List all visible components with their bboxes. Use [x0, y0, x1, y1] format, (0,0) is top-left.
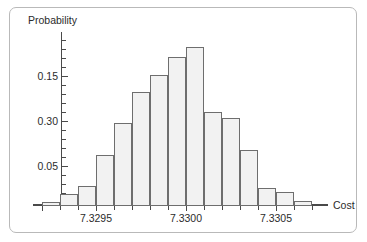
x-axis-major-tick-3: [276, 206, 277, 211]
y-axis-minor-tick: [62, 49, 66, 50]
y-axis-minor-tick: [62, 103, 66, 104]
x-axis-tick: [204, 206, 205, 210]
histogram-bar: [42, 202, 60, 206]
y-axis-minor-tick: [62, 94, 66, 95]
y-axis-minor-tick: [62, 58, 66, 59]
x-axis-tick-label-2: 7.3300: [156, 212, 216, 224]
histogram-bar: [96, 155, 114, 206]
x-axis-major-tick-2: [186, 206, 187, 211]
histogram-plot: Probability Cost 0.15 0.30 0.05: [0, 0, 367, 242]
x-axis-tick: [42, 206, 43, 211]
histogram-bar: [204, 112, 222, 206]
y-axis-major-tick-2: [62, 121, 68, 122]
x-axis-tick: [258, 206, 259, 210]
histogram-bar: [150, 75, 168, 206]
histogram-bar: [294, 201, 312, 206]
y-axis-major-tick-1: [62, 76, 68, 77]
right-tail-segment: [312, 204, 328, 205]
histogram-bar: [258, 188, 276, 206]
x-axis-tick: [150, 206, 151, 210]
y-axis-tick-label-middle: 0.30: [24, 115, 58, 127]
x-axis-tick: [240, 206, 241, 210]
y-axis-tick-label-bottom: 0.05: [24, 160, 58, 172]
histogram-bar: [60, 194, 78, 206]
histogram-bar: [240, 150, 258, 206]
y-axis-minor-tick: [62, 148, 66, 149]
x-axis-tick: [312, 206, 313, 210]
x-axis-tick-label-1: 7.3295: [66, 212, 126, 224]
x-axis-tick: [78, 206, 79, 210]
y-axis-minor-tick: [62, 85, 66, 86]
histogram-bar: [186, 47, 204, 206]
y-axis-minor-tick: [62, 175, 66, 176]
x-axis-tick: [114, 206, 115, 210]
y-axis-minor-tick: [62, 40, 66, 41]
y-axis-title: Probability: [28, 14, 77, 26]
x-axis-tick: [222, 206, 223, 210]
y-axis-minor-tick: [62, 112, 66, 113]
x-axis-title: Cost: [333, 199, 355, 211]
y-axis-minor-tick: [62, 157, 66, 158]
x-axis-tick: [168, 206, 169, 210]
y-axis-tick-label-top: 0.15: [24, 70, 58, 82]
y-axis-major-tick-3: [62, 166, 68, 167]
x-axis-tick-label-3: 7.3305: [246, 212, 306, 224]
x-axis-major-tick-1: [96, 206, 97, 211]
y-axis-minor-tick: [62, 130, 66, 131]
x-axis-tick: [60, 206, 61, 210]
histogram-bar: [78, 186, 96, 206]
y-axis-minor-tick: [62, 67, 66, 68]
histogram-bar: [222, 118, 240, 206]
histogram-bar: [168, 57, 186, 206]
histogram-bar: [276, 192, 294, 206]
histogram-bar: [132, 92, 150, 206]
y-axis-minor-tick: [62, 139, 66, 140]
left-tail-segment: [33, 204, 42, 205]
y-axis-minor-tick: [62, 184, 66, 185]
x-axis-tick: [132, 206, 133, 210]
chart-page: Probability Cost 0.15 0.30 0.05: [0, 0, 367, 242]
x-axis-tick: [294, 206, 295, 210]
histogram-bar: [114, 123, 132, 206]
